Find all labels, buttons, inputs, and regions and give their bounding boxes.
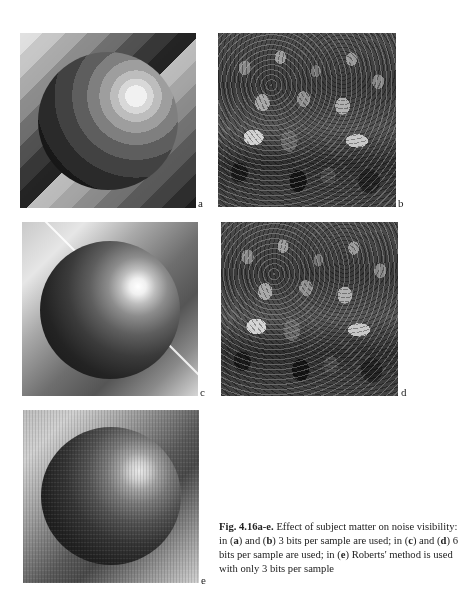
panel-label-b: b (398, 198, 404, 209)
sphere (38, 52, 178, 190)
panel-label-c: c (200, 387, 205, 398)
caption-line-4: with only 3 bits per sample (219, 562, 468, 576)
noise-grain (23, 410, 199, 583)
panel-label-a: a (198, 198, 203, 209)
panel-label-d: d (401, 387, 407, 398)
panel-e-sphere-roberts-method (23, 410, 199, 583)
sphere (40, 241, 180, 379)
figure-number: Fig. 4.16a-e. (219, 521, 274, 532)
caption-line-1: Fig. 4.16a-e. Effect of subject matter o… (219, 520, 468, 534)
caption-line-2: in (a) and (b) 3 bits per sample are use… (219, 534, 468, 548)
panel-label-e: e (201, 575, 206, 586)
caption-line-3: bits per sample are used; in (e) Roberts… (219, 548, 468, 562)
panel-a-quantized-sphere-3bit (20, 33, 196, 208)
panel-d-crowd-photo-6bit (221, 222, 398, 396)
panel-b-crowd-photo-3bit (218, 33, 396, 207)
figure-caption: Fig. 4.16a-e. Effect of subject matter o… (219, 520, 468, 576)
panel-c-sphere-6bit (22, 222, 198, 396)
